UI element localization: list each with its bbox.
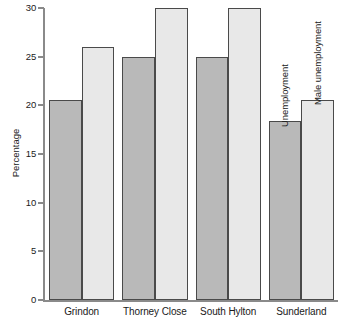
y-axis-tick-label-wrap: 10 [0,198,36,208]
bar[interactable] [196,57,229,300]
y-axis-tick [38,7,44,9]
x-axis-category-label: Thorney Close [118,306,191,318]
bar[interactable] [301,100,334,301]
y-axis-tick-label: 20 [2,100,36,110]
bar[interactable] [49,100,82,301]
y-axis-tick [38,153,44,155]
y-axis-tick-label-wrap: 20 [0,100,36,110]
bar[interactable] [269,121,302,300]
bar[interactable] [155,8,188,300]
series-legend-label: Unemployment [280,64,290,127]
y-axis-tick-label-wrap: 0 [0,295,36,305]
bar[interactable] [228,8,261,300]
x-axis-category-label: Grindon [45,306,118,318]
bar[interactable] [122,57,155,300]
x-axis-line [43,300,338,302]
y-axis-tick-label: 25 [2,52,36,62]
bar-chart: 051015202530 Percentage UnemploymentMale… [0,0,340,333]
y-axis-tick-label: 30 [2,3,36,13]
series-legend-label: Male unemployment [313,22,323,106]
x-axis-category-label: South Hylton [192,306,265,318]
y-axis-tick [38,250,44,252]
x-axis-category-label: Sunderland [265,306,338,318]
y-axis-tick-label-wrap: 30 [0,3,36,13]
plot-area: UnemploymentMale unemployment [45,8,338,300]
y-axis-tick-label-wrap: 25 [0,52,36,62]
y-axis-tick [38,202,44,204]
y-axis-tick-label: 10 [2,198,36,208]
y-axis-tick [38,56,44,58]
y-axis-title: Percentage [11,113,21,193]
y-axis-tick [38,104,44,106]
bar[interactable] [82,47,115,300]
x-axis-category-labels: GrindonThorney CloseSouth HyltonSunderla… [45,306,338,326]
y-axis-tick-label: 0 [2,295,36,305]
y-axis-tick-label-wrap: 5 [0,246,36,256]
y-axis-tick-label: 5 [2,246,36,256]
